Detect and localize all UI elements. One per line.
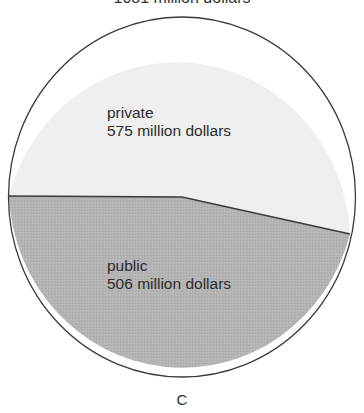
figure-caption: C (0, 391, 364, 408)
private-name: private (107, 104, 231, 122)
pie-chart (0, 0, 364, 413)
private-slice-label: private 575 million dollars (107, 104, 231, 140)
public-slice-label: public 506 million dollars (107, 257, 231, 293)
private-value: 575 million dollars (107, 122, 231, 140)
public-value: 506 million dollars (107, 275, 231, 293)
public-name: public (107, 257, 231, 275)
